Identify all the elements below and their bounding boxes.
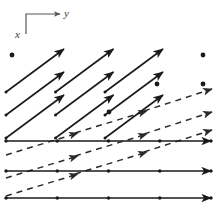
horizontal-vector-tick	[4, 139, 7, 142]
horizontal-vector-tick	[4, 196, 7, 199]
steep-vector-arrow	[56, 49, 114, 92]
axis-indicator: y x	[14, 7, 69, 40]
horizontal-vector-tick	[107, 139, 110, 142]
horizontal-vector-tick	[209, 139, 212, 142]
horizontal-vector-tick	[4, 169, 7, 172]
steep-vector-tail-dot	[5, 91, 8, 94]
horizontal-vector-tick	[56, 196, 59, 199]
steep-vector-tail-dot	[104, 114, 107, 117]
axis-label-y: y	[63, 7, 69, 19]
steep-vector-tail-dot	[5, 114, 8, 117]
zero-vector-point	[155, 82, 160, 87]
steep-vector-group	[5, 49, 164, 140]
steep-vector-arrow	[105, 72, 163, 115]
horizontal-vector-group	[4, 139, 212, 199]
steep-vector-tail-dot	[104, 137, 107, 140]
steep-vector-tail-dot	[5, 137, 8, 140]
steep-vector-arrow	[105, 49, 163, 92]
zero-vector-points-group	[10, 53, 206, 115]
steep-vector-arrow	[6, 72, 64, 115]
steep-vector-tail-dot	[54, 91, 57, 94]
horizontal-vector-tick	[107, 196, 110, 199]
dashed-vector-arrow	[144, 89, 212, 111]
steep-vector-tail-dot	[54, 114, 57, 117]
zero-vector-point	[201, 53, 206, 58]
vector-field-canvas: y x	[0, 0, 217, 206]
steep-vector-arrow	[105, 95, 163, 138]
axis-corner-path	[26, 14, 60, 34]
horizontal-vector-tick	[158, 169, 161, 172]
zero-vector-point	[10, 53, 15, 58]
zero-vector-point	[107, 110, 112, 115]
steep-vector-arrow	[56, 95, 114, 138]
steep-vector-tail-dot	[104, 91, 107, 94]
horizontal-vector-tick	[56, 139, 59, 142]
dashed-vector-arrow	[6, 174, 78, 196]
steep-vector-arrow	[56, 72, 114, 115]
horizontal-vector-tick	[158, 196, 161, 199]
steep-vector-arrow	[6, 95, 64, 138]
dashed-vector-arrow	[6, 133, 78, 155]
vector-field-figure: y x	[0, 0, 217, 206]
horizontal-vector-tick	[107, 169, 110, 172]
horizontal-vector-tick	[209, 196, 212, 199]
horizontal-vector-tick	[158, 139, 161, 142]
horizontal-vector-tick	[209, 169, 212, 172]
steep-vector-tail-dot	[54, 137, 57, 140]
dashed-vector-arrow	[75, 134, 147, 156]
dashed-vector-arrow	[6, 156, 78, 178]
dashed-vector-arrow	[144, 112, 212, 134]
steep-vector-arrow	[6, 49, 64, 92]
axis-label-x: x	[14, 28, 20, 40]
zero-vector-point	[201, 82, 206, 87]
horizontal-vector-tick	[56, 169, 59, 172]
